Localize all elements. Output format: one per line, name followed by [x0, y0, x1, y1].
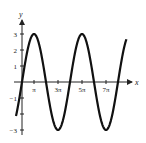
- y-tick-label: −1: [10, 95, 18, 103]
- x-tick-label: 5π: [78, 86, 86, 94]
- y-tick-label: 1: [14, 63, 18, 71]
- y-axis: y: [18, 10, 23, 135]
- y-tick-label: −3: [10, 127, 18, 135]
- y-axis-label: y: [18, 10, 23, 19]
- x-tick-label: π: [32, 86, 36, 94]
- y-tick-label: 2: [14, 47, 18, 55]
- y-tick-label: 3: [14, 31, 18, 39]
- x-tick-label: 7π: [102, 86, 110, 94]
- x-tick-label: 3π: [54, 86, 62, 94]
- x-axis-label: x: [134, 78, 139, 87]
- sine-graph: x y π3π5π7π 321−1−3: [0, 0, 146, 143]
